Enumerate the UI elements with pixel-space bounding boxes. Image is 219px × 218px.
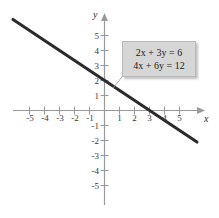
y-tick-label--5: -5 [84,181,99,191]
equation-line-2: 4x + 6y = 12 [133,59,184,72]
y-tick-label-4: 4 [88,46,99,56]
y-tick-label-3: 3 [88,61,99,71]
x-tick-label-5: 5 [173,113,186,123]
y-tick-label--4: -4 [84,166,99,176]
callout-leader-line [113,77,122,88]
x-axis-label: x [204,113,208,124]
x-tick-label--3: -3 [52,113,68,123]
x-tick-label--5: -5 [22,113,38,123]
y-tick-label-5: 5 [88,31,99,41]
x-tick-label-2: 2 [128,113,141,123]
x-tick-label--4: -4 [37,113,53,123]
equation-callout-content: 2x + 3y = 6 4x + 6y = 12 [122,41,196,77]
x-tick-label-3: 3 [143,113,156,123]
x-tick-label--2: -2 [67,113,83,123]
x-tick-label-1: 1 [113,113,126,123]
x-tick-label-4: 4 [158,113,171,123]
graph-figure: 2x + 3y = 6 4x + 6y = 12 -5 -4 -3 -2 -1 … [0,0,219,218]
y-tick-label--2: -2 [84,136,99,146]
y-axis-label: y [93,9,97,20]
y-tick-label-1: 1 [88,91,99,101]
equation-line-1: 2x + 3y = 6 [136,46,182,59]
y-tick-label--3: -3 [84,151,99,161]
coordinate-plane [0,0,219,218]
y-tick-label-2: 2 [88,76,99,86]
y-axis-arrowhead [101,13,108,21]
y-tick-label--1: -1 [84,121,99,131]
